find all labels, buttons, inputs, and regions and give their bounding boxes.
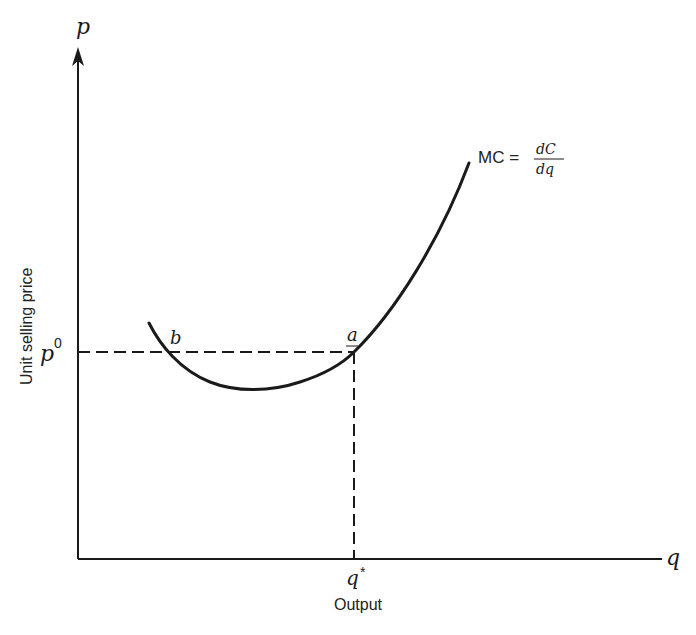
- quantity-level-label: q: [346, 566, 359, 590]
- mc-curve: [149, 163, 469, 390]
- mc-diagram: p q Unit selling price Output MC = dC dq…: [0, 0, 696, 635]
- y-axis-symbol: p: [76, 14, 90, 39]
- x-axis-symbol: q: [666, 545, 680, 570]
- mc-label-denominator: dq: [536, 161, 554, 177]
- point-b-label: b: [170, 327, 182, 348]
- mc-label: MC =: [478, 148, 519, 167]
- point-a-label: a: [347, 324, 358, 345]
- y-axis-label: Unit selling price: [18, 268, 35, 385]
- price-level-superscript: 0: [54, 335, 62, 351]
- mc-label-numerator: dC: [536, 141, 556, 157]
- price-level-label: p: [40, 341, 54, 366]
- x-axis-label: Output: [334, 596, 383, 613]
- quantity-level-superscript: *: [360, 564, 366, 580]
